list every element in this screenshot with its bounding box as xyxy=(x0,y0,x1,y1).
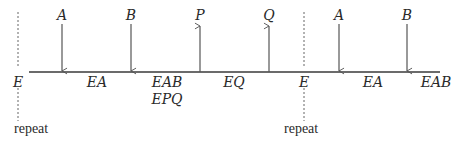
repeat-label: repeat xyxy=(284,121,318,136)
repeat-marker-right: E repeat xyxy=(284,12,318,136)
arrow-B-down-2: B xyxy=(401,7,412,71)
arrow-label: B xyxy=(125,7,136,23)
arrow-B-down: B xyxy=(125,7,136,71)
arrow-label: P xyxy=(194,7,205,23)
arrow-A-down-2: A xyxy=(332,7,344,71)
state-label-EAB: EAB xyxy=(151,74,183,90)
arrow-Q-up: Q xyxy=(263,7,275,72)
arrow-label: Q xyxy=(263,7,275,23)
arrow-label: A xyxy=(332,7,344,23)
state-label-EPQ: EPQ xyxy=(150,91,183,107)
repeat-marker-left: E repeat xyxy=(12,12,48,136)
state-label-EAB: EAB xyxy=(420,74,452,90)
repeat-label: repeat xyxy=(14,121,48,136)
arrow-A-down: A xyxy=(55,7,67,71)
repeat-timeline-diagram: E repeat E repeat A B P Q A B EA EAB EPQ… xyxy=(0,0,454,141)
arrow-label: A xyxy=(55,7,67,23)
arrow-label: B xyxy=(401,7,412,23)
state-label-E: E xyxy=(298,74,309,90)
arrow-P-up: P xyxy=(194,7,205,72)
state-label-EA: EA xyxy=(86,74,107,90)
state-label-E: E xyxy=(12,74,23,90)
state-label-EA: EA xyxy=(362,74,383,90)
state-label-EQ: EQ xyxy=(222,74,245,90)
